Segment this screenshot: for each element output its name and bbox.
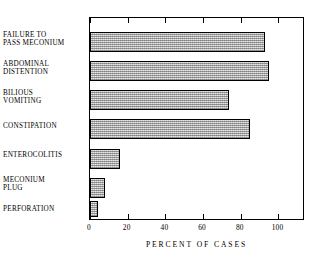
- bar-abdominal-distention: [90, 61, 269, 81]
- x-tick-top: [241, 18, 242, 23]
- category-label: FAILURE TO PASS MECONIUM: [3, 31, 89, 48]
- x-tick-label: 0: [78, 223, 100, 232]
- x-tick-label: 80: [229, 223, 251, 232]
- category-label-text: ABDOMINAL DISTENTION: [3, 60, 89, 77]
- x-tick-bottom: [278, 214, 279, 219]
- x-tick-label: 40: [153, 223, 175, 232]
- x-tick-bottom: [165, 214, 166, 219]
- plot-area: [89, 17, 304, 220]
- x-tick-label: 20: [116, 223, 138, 232]
- x-tick-label: 60: [191, 223, 213, 232]
- bar-meconium-plug: [90, 178, 105, 198]
- category-label-text: FAILURE TO PASS MECONIUM: [3, 31, 89, 48]
- category-label: PERFORATION: [3, 205, 89, 213]
- x-tick-bottom: [128, 214, 129, 219]
- category-label-text: CONSTIPATION: [3, 122, 89, 130]
- category-label-text: PERFORATION: [3, 205, 89, 213]
- bar-chart: FAILURE TO PASS MECONIUM ABDOMINAL DISTE…: [0, 0, 318, 269]
- x-axis-title: PERCENT OF CASES: [89, 240, 304, 249]
- x-tick-top: [203, 18, 204, 23]
- category-label-text: ENTEROCOLITIS: [3, 151, 89, 159]
- bar-bilious-vomiting: [90, 90, 229, 110]
- bar-enterocolitis: [90, 149, 120, 169]
- category-label: CONSTIPATION: [3, 122, 89, 130]
- category-label: BILIOUS VOMITING: [3, 89, 89, 106]
- x-tick-top: [128, 18, 129, 23]
- bar-constipation: [90, 119, 250, 139]
- x-tick-top: [165, 18, 166, 23]
- category-label: ABDOMINAL DISTENTION: [3, 60, 89, 77]
- x-tick-top: [278, 18, 279, 23]
- category-label-text: BILIOUS VOMITING: [3, 89, 89, 106]
- category-label: MECONIUM PLUG: [3, 176, 89, 193]
- bar-perforation: [90, 201, 98, 217]
- category-label-text: MECONIUM PLUG: [3, 176, 89, 193]
- category-label: ENTEROCOLITIS: [3, 151, 89, 159]
- x-tick-top: [90, 18, 91, 23]
- x-tick-bottom: [203, 214, 204, 219]
- x-tick-label: 100: [266, 223, 288, 232]
- x-tick-bottom: [241, 214, 242, 219]
- bar-failure-to-pass-meconium: [90, 32, 265, 52]
